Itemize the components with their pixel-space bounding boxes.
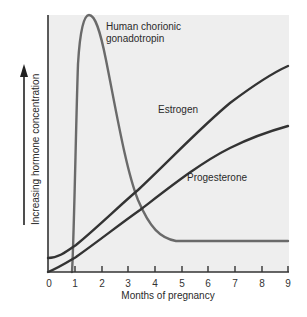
x-tick-9: 9	[285, 278, 291, 289]
x-tick-labels: 0 1 2 3 4 5 6 7 8 9	[46, 278, 291, 289]
x-tick-1: 1	[72, 278, 78, 289]
x-tick-6: 6	[205, 278, 211, 289]
x-axis-label: Months of pregnancy	[121, 290, 214, 301]
x-tick-7: 7	[232, 278, 238, 289]
x-tick-8: 8	[259, 278, 265, 289]
label-hcg-line2: gonadotropin	[106, 33, 164, 44]
label-progesterone: Progesterone	[187, 172, 247, 183]
arrow-up-icon	[20, 64, 28, 77]
label-hcg-line1: Human chorionic	[106, 21, 181, 32]
x-tick-2: 2	[99, 278, 105, 289]
label-estrogen: Estrogen	[158, 104, 198, 115]
plot-area	[48, 15, 289, 272]
x-tick-5: 5	[179, 278, 185, 289]
x-tick-3: 3	[125, 278, 131, 289]
hormone-chart: Increasing hormone concentration Human c…	[0, 0, 307, 317]
x-tick-4: 4	[152, 278, 158, 289]
x-tick-0: 0	[46, 278, 52, 289]
y-axis-label: Increasing hormone concentration	[30, 74, 41, 225]
